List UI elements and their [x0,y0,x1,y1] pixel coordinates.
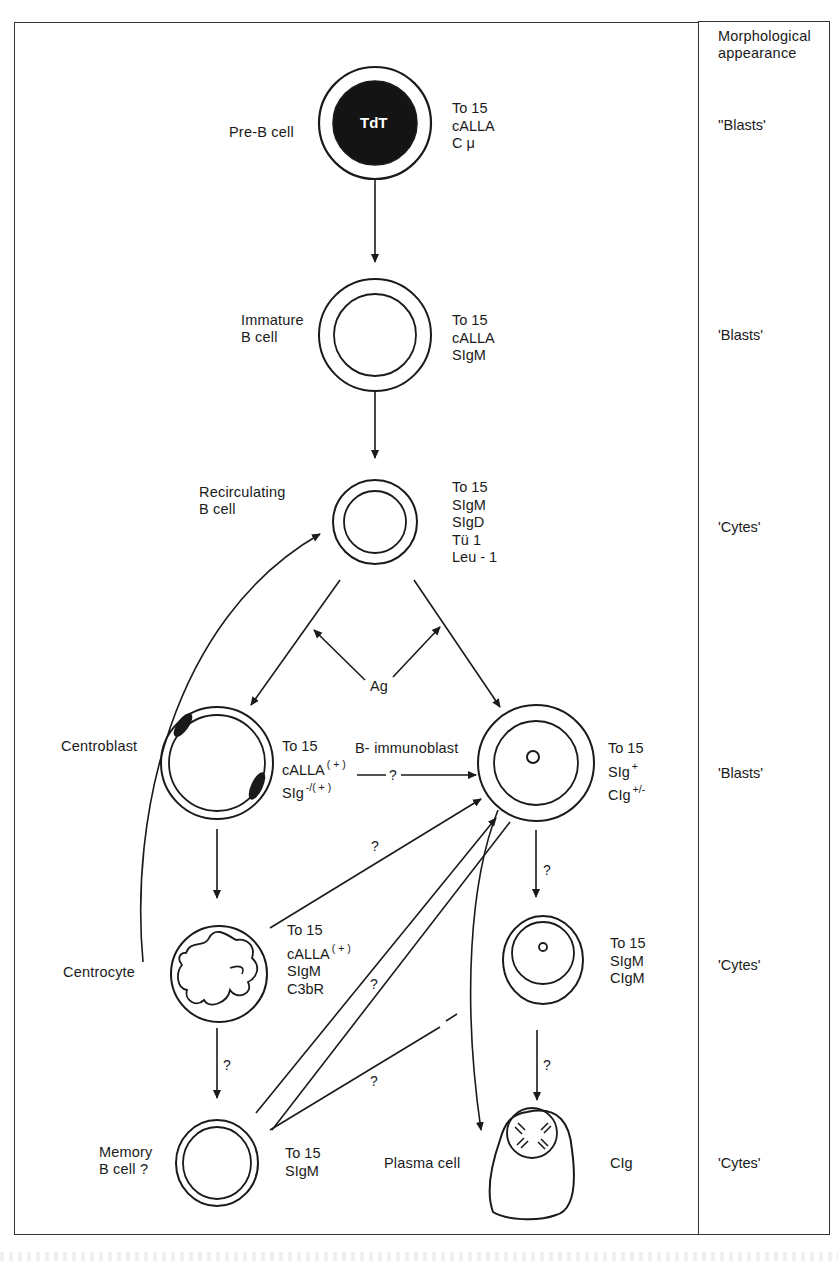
tdt-nucleus-label: TdT [360,114,388,131]
immature-b-cell-icon [319,279,431,391]
uncertain-centrocyte-immunoblast: ? [371,838,379,854]
recirculating-b-markers: To 15 SIgM SIgD Tü 1 Leu - 1 [452,479,497,567]
immature-b-markers: To 15 cALLA SIgM [452,312,495,365]
uncertain-immunoblast-lymphoplasmacytoid: ? [543,862,551,878]
lymphoplasmacytoid-markers: To 15 SIgM CIgM [610,935,645,988]
centroblast-morphology: 'Blasts' [718,765,763,781]
morphology-column-title: Morphological appearance [718,28,811,62]
plasma-cell-label: Plasma cell [384,1155,460,1172]
recirculating-b-cell-icon [333,480,417,564]
memory-b-cell-icon [176,1120,258,1206]
b-immunoblast-label: B- immunoblast [355,740,459,757]
uncertain-memory-lymphoplasmacytoid: ? [370,1073,378,1089]
memory-b-markers: To 15 SIgM [285,1145,320,1180]
recirculating-b-morphology: 'Cytes' [718,519,761,535]
uncertain-memory-immunoblast: ? [370,976,378,992]
pre-b-markers: To 15 cALLA C μ [452,100,495,153]
arrow-immunoblast-to-plasma [471,810,498,1130]
uncertain-centroblast-immunoblast: ? [389,767,397,783]
arrow-ag-right [393,627,440,677]
memory-plasma-morphology: 'Cytes' [718,1155,761,1171]
uncertain-centrocyte-memory: ? [223,1057,231,1073]
centrocyte-markers: To 15 cALLA( + ) SIgM C3bR [287,922,351,998]
b-cell-differentiation-diagram: Morphological appearance TdT Pre-B cell … [0,0,838,1261]
immature-b-cell-label: Immature B cell [241,312,304,346]
centroblast-icon [161,707,273,819]
pre-b-morphology: ''Blasts' [718,117,766,133]
uncertain-lymphoplasmacytoid-plasma: ? [543,1057,551,1073]
arrow-recirculating-to-immunoblast [414,580,500,707]
diagram-graphics [0,0,838,1261]
arrow-centrocyte-to-immunoblast [270,799,481,928]
plasma-cell-markers: CIg [610,1155,633,1173]
pre-b-cell-label: Pre-B cell [229,124,294,141]
b-immunoblast-markers: To 15 SIg+ CIg+/- [608,740,645,805]
b-immunoblast-icon [478,705,594,821]
centroblast-markers: To 15 cALLA( + ) SIg-/( + ) [282,738,346,803]
cut-off-caption-line [0,1252,838,1261]
centrocyte-icon [171,926,267,1022]
lymphoplasmacytoid-cell-icon [503,916,583,1004]
memory-b-cell-label: Memory B cell ? [99,1144,153,1178]
immature-b-morphology: 'Blasts' [718,327,763,343]
centroblast-label: Centroblast [61,738,137,755]
plasma-cell-icon [490,1108,574,1219]
centrocyte-morphology: 'Cytes' [718,957,761,973]
centrocyte-label: Centrocyte [63,964,135,981]
arrow-memory-to-lymphoplasmacytoid [270,1027,440,1130]
arrow-ag-left [314,630,365,680]
recirculating-b-cell-label: Recirculating B cell [199,484,285,518]
antigen-label: Ag [370,678,388,695]
